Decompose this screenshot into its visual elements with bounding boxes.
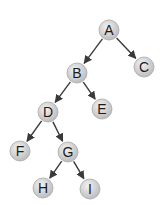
edge-a-b [84, 39, 102, 64]
node-label: G [63, 144, 74, 160]
edge-a-c [117, 38, 136, 58]
node-f: F [10, 141, 30, 161]
nodes-layer: ABCDEFGHI [10, 20, 154, 199]
node-label: H [38, 180, 48, 196]
node-label: A [104, 22, 114, 38]
edge-g-h [50, 161, 62, 178]
node-c: C [134, 57, 154, 77]
node-i: I [80, 179, 100, 199]
edge-d-g [53, 122, 63, 141]
node-g: G [58, 142, 78, 162]
node-b: B [67, 63, 87, 83]
node-e: E [92, 99, 112, 119]
node-label: F [16, 143, 25, 159]
node-label: C [139, 59, 149, 75]
node-h: H [33, 178, 53, 198]
node-d: D [38, 102, 58, 122]
node-label: B [72, 65, 81, 81]
node-label: I [88, 181, 92, 197]
tree-diagram: ABCDEFGHI [0, 0, 162, 205]
edge-b-d [55, 82, 70, 103]
edge-g-i [74, 161, 84, 178]
edge-d-f [27, 121, 42, 141]
node-a: A [99, 20, 119, 40]
node-label: D [43, 104, 53, 120]
edge-b-e [83, 82, 95, 99]
node-label: E [97, 101, 106, 117]
